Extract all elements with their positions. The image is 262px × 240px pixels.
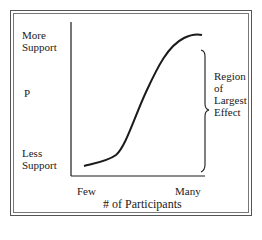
region-line-2: of <box>214 82 254 94</box>
region-line-3: Largest <box>214 94 254 106</box>
x-axis-title: # of Participants <box>103 198 182 210</box>
region-line-4: Effect <box>214 106 254 118</box>
few-label: Few <box>77 185 96 197</box>
brace-icon <box>201 50 209 172</box>
more-support-label: More Support <box>22 29 68 53</box>
many-label: Many <box>175 185 201 197</box>
region-line-1: Region <box>214 70 254 82</box>
sigmoid-curve <box>84 34 202 166</box>
region-annotation: Region of Largest Effect <box>214 70 254 118</box>
less-support-label: Less Support <box>22 147 68 171</box>
p-label: P <box>24 87 30 99</box>
